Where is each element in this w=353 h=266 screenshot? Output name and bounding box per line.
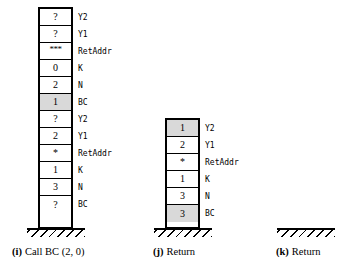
stack-cell: 3: [167, 205, 198, 222]
ground-hatch-pattern: [277, 229, 335, 237]
panel-j-caption-text: Return: [167, 246, 196, 257]
stack-cell: ?: [40, 111, 71, 128]
stack-cell-label: Y2: [205, 121, 239, 138]
stack-cell-label: Y2: [78, 10, 112, 27]
stack-cell-value: ?: [53, 114, 57, 124]
stack-cell-label: RetAddr: [78, 146, 112, 163]
stack-cell-label: Y1: [205, 138, 239, 155]
stack-cell-label: K: [78, 61, 112, 78]
panel-i-caption-label: (i): [12, 246, 22, 257]
panel-i-labels: Y2 Y1 RetAddr K N BC Y2 Y1 RetAddr K N B…: [78, 10, 112, 214]
stack-cell-label: K: [205, 172, 239, 189]
stack-cell-value: ?: [53, 12, 57, 22]
panel-k-caption: (k)Return: [276, 247, 320, 258]
panel-j-ground-hatching: [154, 228, 212, 237]
stack-cell: ***: [40, 43, 71, 60]
stack-cell-label: Y1: [78, 129, 112, 146]
stack-cell-value: 2: [53, 131, 58, 141]
stack-cell: 1: [40, 162, 71, 179]
stack-cell-value: 0: [53, 63, 58, 73]
panel-k-ground-hatching: [277, 228, 335, 237]
stack-cell-value: 3: [180, 191, 185, 201]
stack-cell-label: N: [78, 78, 112, 95]
stack-cell-value: *: [180, 157, 185, 167]
stack-cell: 0: [40, 60, 71, 77]
stack-cell-label: BC: [78, 197, 112, 214]
stack-cell: 1: [40, 94, 71, 111]
stack-cell-value: 3: [180, 208, 185, 218]
stack-cell: 2: [40, 77, 71, 94]
stack-cell-value: *: [53, 148, 58, 158]
stack-cell: ?: [40, 26, 71, 43]
panel-i-caption-text: Call BC (2, 0): [25, 246, 85, 257]
stack-cell-label: N: [78, 180, 112, 197]
panel-j-caption-label: (j): [153, 246, 164, 257]
stack-cell-label: K: [78, 163, 112, 180]
stack-cell-value: 2: [53, 80, 58, 90]
stack-cell-value: 1: [53, 97, 58, 107]
stack-cell: *: [167, 154, 198, 171]
stack-cell: 3: [40, 179, 71, 196]
panel-k-caption-text: Return: [292, 246, 321, 257]
stack-cell-value: 3: [53, 182, 58, 192]
ground-hatch-pattern: [27, 229, 85, 237]
figure-canvas: ? ? *** 0 2 1 ? 2 * 1 3 ? Y2 Y1 RetAddr …: [0, 0, 353, 266]
panel-j-labels: Y2 Y1 RetAddr K N BC: [205, 121, 239, 223]
stack-cell: ?: [40, 196, 71, 213]
panel-j-caption: (j)Return: [153, 247, 195, 258]
stack-cell-value: ?: [53, 199, 57, 209]
stack-cell-label: N: [205, 189, 239, 206]
stack-cell-value: 2: [180, 140, 185, 150]
stack-cell-value: ***: [50, 45, 62, 54]
panel-i-stack: ? ? *** 0 2 1 ? 2 * 1 3 ?: [38, 7, 73, 229]
stack-cell: 1: [167, 120, 198, 137]
panel-i-ground-hatching: [27, 228, 85, 237]
stack-cell-label: Y1: [78, 27, 112, 44]
stack-cell-value: ?: [53, 29, 57, 39]
stack-cell: 2: [167, 137, 198, 154]
stack-cell-label: Y2: [78, 112, 112, 129]
panel-j-stack: 1 2 * 1 3 3: [165, 118, 200, 229]
stack-cell-value: 1: [180, 174, 185, 184]
stack-cell: 3: [167, 188, 198, 205]
panel-k-caption-label: (k): [276, 246, 289, 257]
stack-cell: ?: [40, 9, 71, 26]
stack-cell-label: BC: [78, 95, 112, 112]
stack-cell-label: RetAddr: [205, 155, 239, 172]
ground-hatch-pattern: [154, 229, 212, 237]
stack-cell-value: 1: [53, 165, 58, 175]
stack-cell-value: 1: [180, 123, 185, 133]
stack-cell-label: BC: [205, 206, 239, 223]
stack-cell: *: [40, 145, 71, 162]
stack-cell: 2: [40, 128, 71, 145]
stack-cell: 1: [167, 171, 198, 188]
stack-cell-label: RetAddr: [78, 44, 112, 61]
panel-i-caption: (i)Call BC (2, 0): [12, 247, 84, 258]
